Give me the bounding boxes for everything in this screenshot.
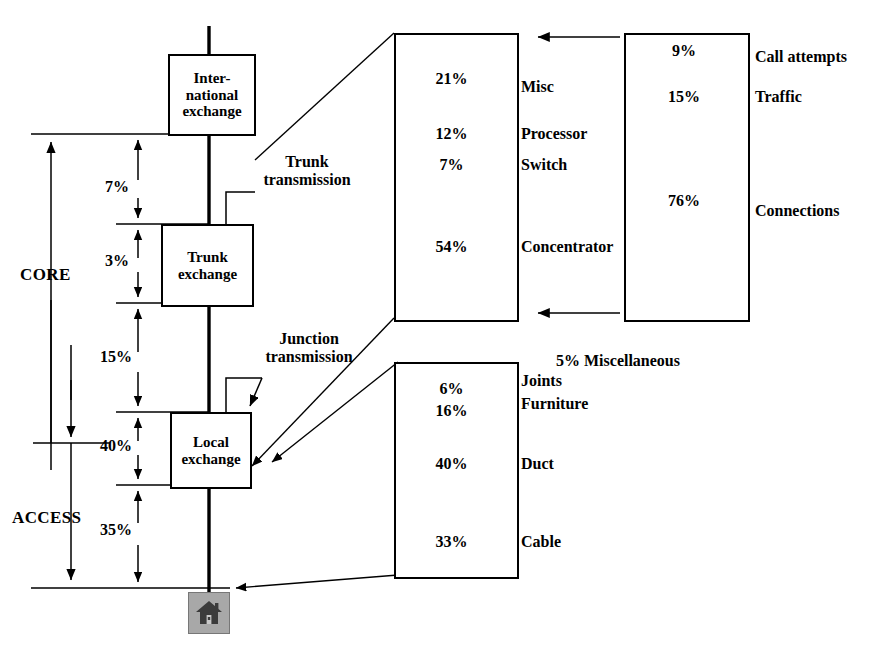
access-label-duct: Duct [521, 455, 554, 473]
segment-label-35: 35% [100, 521, 132, 539]
segment-label-7: 7% [105, 178, 129, 196]
node-international-exchange-label: Inter- national exchange [182, 70, 241, 120]
exchange-value-concentrator: 54% [394, 238, 509, 256]
access-value-joints: 6% [394, 380, 509, 398]
house-icon [194, 599, 224, 627]
access-value-furniture: 16% [394, 402, 509, 420]
node-international-exchange[interactable]: Inter- national exchange [168, 54, 256, 136]
segment-label-3: 3% [105, 252, 129, 270]
exchange-value-misc: 21% [394, 70, 509, 88]
exchange-label-processor: Processor [521, 125, 587, 143]
exchange-label-switch: Switch [521, 156, 567, 174]
node-local-exchange[interactable]: Local exchange [170, 412, 252, 489]
node-customer-premises[interactable] [188, 592, 230, 634]
access-label-furniture: Furniture [521, 395, 588, 413]
callout-access-to-local [272, 362, 398, 462]
traffic-breakdown-bar [624, 33, 750, 322]
access-label-cable: Cable [521, 533, 561, 551]
access-value-cable: 33% [394, 533, 509, 551]
diagram-canvas: Inter- national exchange Trunk exchange … [0, 0, 884, 656]
access-value-duct: 40% [394, 455, 509, 473]
junction-transmission-leader [226, 378, 262, 412]
exchange-value-processor: 12% [394, 125, 509, 143]
traffic-value-call-attempts: 9% [626, 42, 742, 60]
traffic-value-traffic: 15% [626, 88, 742, 106]
traffic-value-connections: 76% [626, 192, 742, 210]
node-trunk-exchange[interactable]: Trunk exchange [161, 224, 254, 307]
segment-label-40: 40% [100, 437, 132, 455]
node-trunk-exchange-label: Trunk exchange [178, 249, 237, 283]
callout-exchange-to-trunk [252, 33, 394, 466]
segment-label-15: 15% [100, 348, 132, 366]
traffic-label-traffic: Traffic [755, 88, 802, 106]
trunk-transmission-leader [226, 192, 255, 224]
span-label-access: ACCESS [12, 508, 81, 528]
left-dimension-spine [51, 300, 71, 443]
node-local-exchange-label: Local exchange [181, 434, 240, 468]
span-label-core: CORE [20, 265, 71, 285]
access-label-joints: Joints [521, 372, 562, 390]
miscellaneous-note: 5% Miscellaneous [556, 352, 680, 370]
traffic-label-call-attempts: Call attempts [755, 48, 847, 66]
exchange-label-misc: Misc [521, 78, 554, 96]
traffic-label-connections: Connections [755, 202, 839, 220]
leader-trunk-transmission: Trunk transmission [232, 153, 382, 189]
exchange-value-switch: 7% [394, 156, 509, 174]
leader-junction-transmission: Junction transmission [231, 330, 387, 366]
callout-access-to-house [236, 575, 398, 588]
exchange-label-concentrator: Concentrator [521, 238, 613, 256]
